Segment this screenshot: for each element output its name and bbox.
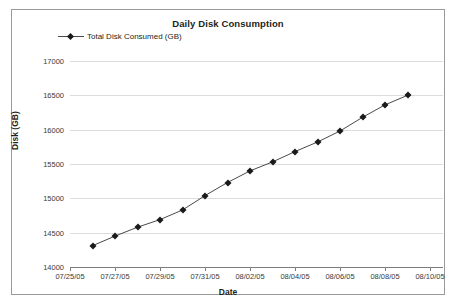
y-tick-label: 15000 [30,194,64,203]
y-tick-label: 17000 [30,57,64,66]
x-tick [250,267,251,271]
x-tick [340,267,341,271]
x-tick-label: 08/02/05 [225,272,275,281]
plot-area [70,61,443,267]
y-tick-label: 15500 [30,160,64,169]
legend-diamond-marker-icon [67,32,74,39]
chart-frame: Daily Disk Consumption Total Disk Consum… [11,9,445,295]
x-tick [115,267,116,271]
x-tick-label: 07/27/05 [90,272,140,281]
legend-label-total-disk-consumed: Total Disk Consumed (GB) [87,32,182,41]
x-tick [385,267,386,271]
x-tick [70,267,71,271]
y-tick-label: 16500 [30,91,64,100]
x-tick-label: 07/29/05 [135,272,185,281]
chart-title: Daily Disk Consumption [12,18,444,29]
y-axis-title: Disk (GB) [10,111,20,150]
x-tick [295,267,296,271]
y-tick-label: 16000 [30,126,64,135]
x-tick-label: 08/06/05 [315,272,365,281]
x-axis-title: Date [12,287,444,297]
y-tick-label: 14000 [30,263,64,272]
x-tick [205,267,206,271]
x-tick-label: 08/10/05 [405,272,455,281]
legend-line-swatch [58,36,84,37]
x-tick-label: 08/08/05 [360,272,410,281]
x-axis-line [70,267,443,268]
y-tick-label: 14500 [30,229,64,238]
x-tick [430,267,431,271]
x-tick [160,267,161,271]
x-tick-label: 08/04/05 [270,272,320,281]
x-tick-label: 07/31/05 [180,272,230,281]
chart-legend: Total Disk Consumed (GB) [58,32,182,41]
series-line-total-disk-consumed [70,61,443,267]
x-tick-label: 07/25/05 [45,272,95,281]
